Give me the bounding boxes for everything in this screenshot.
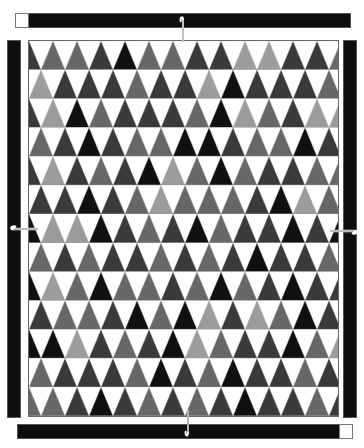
left-hook-icon [8, 224, 40, 234]
top-strip-corner-square [15, 13, 29, 28]
bottom-hook-icon [183, 408, 193, 440]
bottom-strip-corner-square [339, 424, 353, 439]
right-hook-icon [328, 226, 360, 236]
top-hook-icon [178, 14, 188, 44]
triangle-pattern [29, 41, 338, 416]
triangle-grid [28, 40, 339, 417]
